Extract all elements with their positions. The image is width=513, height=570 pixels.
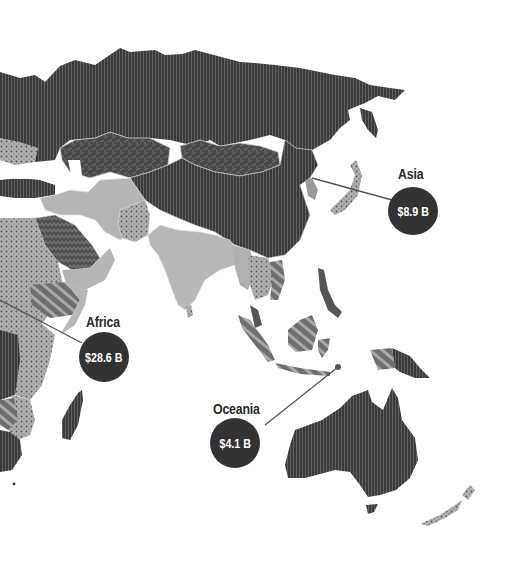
world-map — [0, 0, 513, 570]
region-turkey — [0, 178, 55, 198]
region-sulawesi — [318, 338, 330, 358]
oceania-value: $4.1 B — [219, 436, 250, 451]
region-new-guinea-west — [370, 348, 395, 370]
region-sri-lanka — [186, 305, 193, 318]
africa-label: Africa — [86, 314, 120, 330]
region-new-zealand — [420, 500, 462, 526]
region-new-zealand-north — [462, 485, 475, 500]
africa-value-bubble: $28.6 B — [79, 332, 129, 382]
africa-value: $28.6 B — [85, 350, 122, 365]
asia-value-bubble: $8.9 B — [388, 187, 438, 235]
oceania-label: Oceania — [213, 401, 260, 417]
region-kenya-tanzania — [15, 322, 55, 400]
region-australia — [285, 388, 418, 497]
region-borneo — [288, 315, 318, 352]
region-java — [275, 363, 330, 376]
region-tasmania — [366, 504, 378, 514]
oceania-leader-line — [265, 367, 338, 425]
asia-value: $8.9 B — [397, 204, 428, 219]
black-sea — [0, 165, 42, 179]
asia-label: Asia — [398, 166, 423, 182]
region-papua-new-guinea — [392, 348, 430, 378]
region-vietnam — [270, 260, 285, 300]
region-madagascar — [62, 390, 83, 440]
oceania-leader-dot — [335, 364, 341, 370]
region-philippines — [318, 268, 342, 318]
island-dot — [13, 483, 16, 486]
region-kamchatka — [360, 108, 378, 138]
oceania-value-bubble: $4.1 B — [210, 418, 260, 468]
region-korea — [305, 178, 318, 200]
